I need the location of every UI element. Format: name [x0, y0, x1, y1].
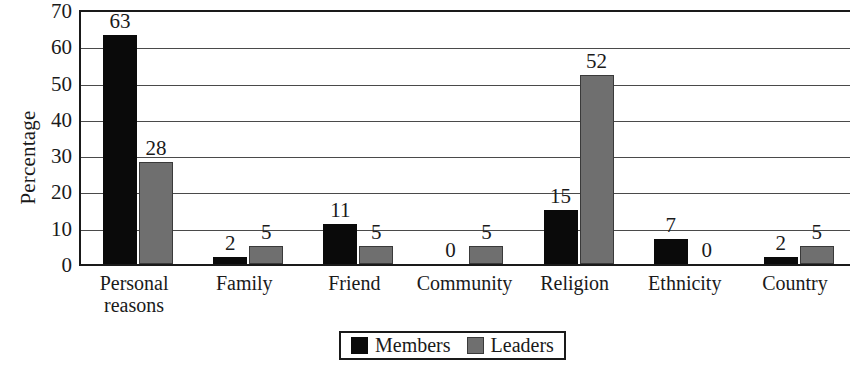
- x-axis-category-label: Personal reasons: [79, 272, 189, 316]
- plot-area: 6328251150515527025: [79, 10, 850, 266]
- bar-group: 1552: [522, 12, 632, 264]
- y-axis-tick-label: 30: [26, 146, 72, 167]
- y-axis-tick-label: 70: [26, 1, 72, 22]
- bar-members: [544, 210, 578, 264]
- bar-leaders: [359, 246, 393, 264]
- chart-legend: Members Leaders: [339, 331, 566, 360]
- bar-leaders: [469, 246, 503, 264]
- bar-value-label: 5: [246, 222, 286, 243]
- bar-members: [103, 35, 137, 264]
- bar-value-label: 2: [210, 233, 250, 254]
- y-axis-tick-label: 50: [26, 73, 72, 94]
- bar-leaders: [139, 162, 173, 264]
- bar-group: 70: [632, 12, 742, 264]
- bar-value-label: 5: [797, 222, 837, 243]
- bar-leaders: [800, 246, 834, 264]
- y-axis-tick-label: 0: [26, 255, 72, 276]
- gray-square-swatch-icon: [467, 337, 484, 354]
- x-axis-category-label: Friend: [299, 272, 409, 294]
- bar-members: [323, 224, 357, 264]
- bar-group: 05: [411, 12, 521, 264]
- legend-label-leaders: Leaders: [491, 335, 554, 355]
- black-square-swatch-icon: [351, 337, 368, 354]
- bar-members: [764, 257, 798, 264]
- y-axis-tick-label: 20: [26, 182, 72, 203]
- bar-group: 115: [301, 12, 411, 264]
- bar-value-label: 11: [320, 200, 360, 221]
- bar-value-label: 0: [687, 240, 727, 261]
- x-axis-category-label: Community: [409, 272, 519, 294]
- bar-group: 25: [742, 12, 852, 264]
- bar-value-label: 5: [356, 222, 396, 243]
- y-axis-tick-label: 60: [26, 37, 72, 58]
- bar-value-label: 5: [466, 222, 506, 243]
- y-axis-tick-label: 40: [26, 109, 72, 130]
- bar-leaders: [249, 246, 283, 264]
- legend-label-members: Members: [375, 335, 451, 355]
- bar-group: 6328: [81, 12, 191, 264]
- bar-leaders: [580, 75, 614, 264]
- legend-item-leaders: Leaders: [467, 335, 554, 355]
- legend-item-members: Members: [351, 335, 451, 355]
- x-axis-category-label: Family: [189, 272, 299, 294]
- x-axis-category-label: Religion: [520, 272, 630, 294]
- y-axis-tick-label: 10: [26, 218, 72, 239]
- x-axis-category-label: Country: [740, 272, 850, 294]
- bar-group: 25: [191, 12, 301, 264]
- bar-value-label: 7: [651, 215, 691, 236]
- bar-chart: Percentage 010203040506070 6328251150515…: [0, 0, 856, 365]
- bar-value-label: 15: [541, 186, 581, 207]
- bar-value-label: 28: [136, 138, 176, 159]
- bar-value-label: 0: [430, 240, 470, 261]
- bar-members: [654, 239, 688, 264]
- bar-value-label: 2: [761, 233, 801, 254]
- bar-members: [213, 257, 247, 264]
- bar-value-label: 52: [577, 51, 617, 72]
- y-axis-tick-labels: 010203040506070: [0, 10, 72, 266]
- bar-value-label: 63: [100, 11, 140, 32]
- x-axis-category-label: Ethnicity: [630, 272, 740, 294]
